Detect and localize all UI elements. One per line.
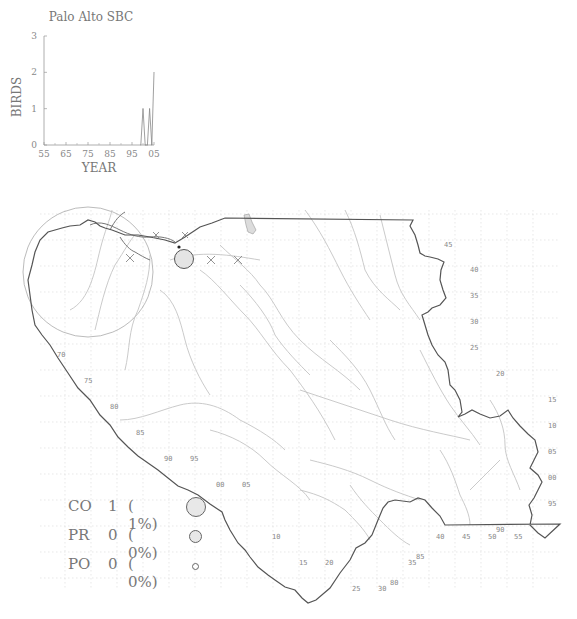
river bbox=[380, 215, 420, 320]
chart-title: Palo Alto SBC bbox=[49, 10, 133, 24]
y-tick-label: 2 bbox=[31, 67, 37, 77]
grid-label-bottom: 85 bbox=[416, 553, 424, 561]
region-boundary bbox=[28, 218, 560, 603]
grid-label-bottom: 55 bbox=[514, 533, 522, 541]
grid-label-lat: 15 bbox=[548, 396, 556, 404]
grid-label-bottom: 10 bbox=[272, 533, 280, 541]
grid-label-lat: 20 bbox=[496, 370, 504, 378]
absent-marker-x bbox=[207, 256, 215, 264]
x-tick-label: 65 bbox=[60, 149, 72, 159]
grid-label-bottom: 35 bbox=[408, 559, 416, 567]
grid-label-bottom: 30 bbox=[378, 585, 386, 593]
legend-count: 0 bbox=[108, 555, 118, 573]
grid-label-lat: 05 bbox=[548, 448, 556, 456]
legend-code: CO bbox=[68, 497, 92, 515]
map-grid bbox=[40, 210, 560, 590]
grid-label-lon: 00 bbox=[216, 481, 224, 489]
legend-percent: ( 0%) bbox=[128, 555, 158, 591]
legend-count: 0 bbox=[108, 526, 118, 544]
bay-shoreline bbox=[90, 212, 175, 260]
grid-label-bottom: 25 bbox=[352, 585, 360, 593]
river bbox=[330, 340, 395, 440]
grid-label-lat: 25 bbox=[470, 344, 478, 352]
river bbox=[125, 255, 150, 370]
grid-label-bottom: 40 bbox=[436, 533, 444, 541]
grid-label-bottom: 20 bbox=[325, 559, 333, 567]
grid-label-lat: 40 bbox=[470, 266, 478, 274]
grid-label-lat: 45 bbox=[444, 241, 452, 249]
grid-label-lat: 35 bbox=[470, 292, 478, 300]
river bbox=[490, 400, 520, 490]
grid-label-lon: 70 bbox=[57, 351, 65, 359]
grid-label-lon: 75 bbox=[84, 377, 92, 385]
data-point bbox=[151, 145, 152, 146]
grid-label-lat: 00 bbox=[548, 474, 556, 482]
data-point bbox=[140, 145, 141, 146]
grid-label-lat: 30 bbox=[470, 318, 478, 326]
absent-marker-x bbox=[126, 254, 134, 262]
grid-label-lon: 80 bbox=[110, 403, 118, 411]
legend-circle-large-icon bbox=[186, 497, 206, 517]
legend-code: PR bbox=[68, 526, 89, 544]
river bbox=[200, 270, 335, 440]
grid-label-lat: 10 bbox=[548, 422, 556, 430]
data-point bbox=[143, 108, 144, 109]
x-tick-label: 75 bbox=[82, 149, 94, 159]
chart-xlabel: YEAR bbox=[81, 161, 117, 175]
chart-ticks: 5565758595050123 bbox=[31, 31, 160, 159]
grid-label-bottom: 15 bbox=[299, 559, 307, 567]
grid-label-lon: 95 bbox=[190, 455, 198, 463]
grid-label-lon: 05 bbox=[242, 481, 250, 489]
x-tick-label: 55 bbox=[38, 149, 50, 159]
search-radius-circle bbox=[23, 207, 153, 337]
chart-axes bbox=[44, 36, 154, 145]
grid-label-lon: 85 bbox=[136, 429, 144, 437]
chart-series bbox=[140, 72, 154, 145]
river bbox=[95, 235, 135, 330]
river bbox=[305, 210, 370, 320]
grid-label-lat: 95 bbox=[548, 500, 556, 508]
absent-marker-x bbox=[234, 256, 242, 264]
river bbox=[160, 290, 210, 395]
x-tick-label: 05 bbox=[148, 149, 160, 159]
y-tick-label: 0 bbox=[31, 140, 37, 150]
river bbox=[210, 430, 310, 500]
data-point bbox=[154, 72, 155, 73]
x-tick-label: 85 bbox=[104, 149, 116, 159]
legend-circle-small-icon bbox=[192, 563, 199, 570]
grid-label-bottom: 80 bbox=[390, 579, 398, 587]
lake bbox=[244, 214, 256, 234]
grid-label-bottom: 45 bbox=[462, 533, 470, 541]
river bbox=[345, 210, 400, 310]
birds-chart: Palo Alto SBC BIRDS YEAR 556575859505012… bbox=[0, 0, 200, 185]
data-point bbox=[145, 145, 146, 146]
data-point bbox=[149, 108, 150, 109]
data-point bbox=[147, 145, 148, 146]
grid-label-lon: 90 bbox=[164, 455, 172, 463]
grid-label-bottom: 90 bbox=[496, 526, 504, 534]
river bbox=[220, 245, 360, 390]
legend-code: PO bbox=[68, 555, 90, 573]
confirmed-marker-circle bbox=[175, 250, 194, 269]
river bbox=[470, 460, 500, 490]
x-tick-label: 95 bbox=[126, 149, 138, 159]
river bbox=[300, 390, 470, 440]
y-tick-label: 3 bbox=[31, 31, 37, 41]
river bbox=[240, 285, 310, 375]
legend-count: 1 bbox=[108, 497, 118, 515]
grid-label-bottom: 50 bbox=[488, 533, 496, 541]
river bbox=[120, 403, 285, 450]
legend-circle-medium-icon bbox=[189, 530, 202, 543]
chart-ylabel: BIRDS bbox=[10, 77, 24, 117]
river bbox=[310, 460, 420, 500]
y-tick-label: 1 bbox=[31, 104, 37, 114]
site-dot bbox=[177, 245, 180, 248]
rivers bbox=[70, 210, 520, 545]
